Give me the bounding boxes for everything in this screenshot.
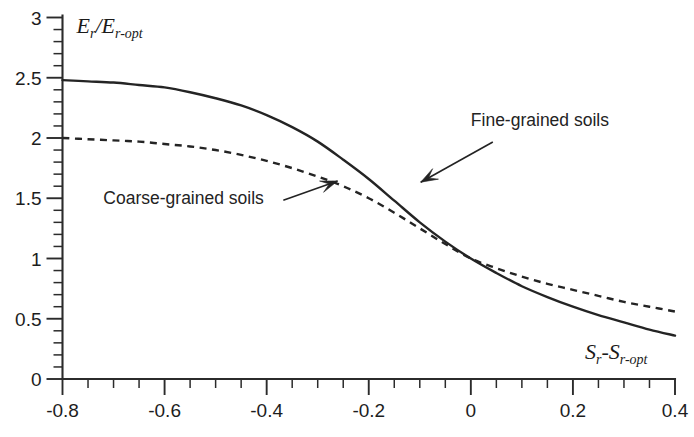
x-tick-label: -0.8 [46, 400, 79, 421]
chart-background [0, 0, 694, 437]
annotation-fine-label: Fine-grained soils [471, 110, 609, 130]
x-tick-label: 0.4 [662, 400, 689, 421]
soil-modulus-ratio-chart: 00.511.522.53 -0.8-0.6-0.4-0.200.20.4 Er… [0, 0, 694, 437]
x-tick-label: 0.2 [560, 400, 586, 421]
y-tick-label: 1.5 [15, 188, 41, 209]
y-tick-label: 2 [31, 128, 42, 149]
chart-figure: 00.511.522.53 -0.8-0.6-0.4-0.200.20.4 Er… [0, 0, 694, 437]
y-tick-label: 3 [31, 8, 42, 29]
y-tick-label: 1 [31, 249, 42, 270]
x-tick-label: -0.4 [250, 400, 283, 421]
y-tick-label: 0 [31, 369, 42, 390]
x-tick-label: 0 [466, 400, 477, 421]
x-tick-label: -0.2 [352, 400, 385, 421]
x-tick-label: -0.6 [148, 400, 181, 421]
y-tick-label: 2.5 [15, 68, 41, 89]
annotation-coarse-label: Coarse-grained soils [103, 188, 264, 208]
y-tick-label: 0.5 [15, 309, 41, 330]
